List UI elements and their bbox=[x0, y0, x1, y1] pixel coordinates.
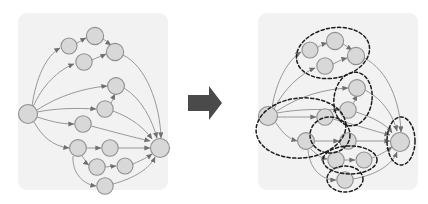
right-graph-panel bbox=[254, 13, 418, 192]
node-sink[interactable] bbox=[151, 139, 170, 158]
transform-arrow bbox=[188, 86, 222, 120]
node-r-f1[interactable] bbox=[337, 172, 353, 188]
node-r-sink[interactable] bbox=[391, 133, 410, 152]
node-b1[interactable] bbox=[108, 78, 125, 95]
node-e2[interactable] bbox=[117, 158, 133, 174]
node-c1[interactable] bbox=[75, 116, 91, 132]
node-b2[interactable] bbox=[97, 101, 113, 117]
left-graph-panel bbox=[18, 13, 170, 194]
diagram-svg bbox=[0, 0, 428, 204]
node-r-b2[interactable] bbox=[340, 102, 356, 118]
node-r-a2[interactable] bbox=[326, 32, 343, 49]
node-a2[interactable] bbox=[86, 27, 103, 44]
node-a3[interactable] bbox=[76, 54, 92, 70]
node-a4[interactable] bbox=[106, 43, 123, 60]
node-r-a4[interactable] bbox=[347, 47, 364, 64]
right-arrow-icon bbox=[188, 86, 222, 120]
node-r-a1[interactable] bbox=[302, 42, 318, 58]
figure-container bbox=[0, 0, 428, 204]
node-r-b1[interactable] bbox=[349, 80, 366, 97]
node-d2[interactable] bbox=[102, 140, 118, 156]
node-source[interactable] bbox=[19, 105, 38, 124]
node-r-a3[interactable] bbox=[317, 58, 333, 74]
node-f1[interactable] bbox=[97, 178, 113, 194]
node-r-e2[interactable] bbox=[356, 152, 372, 168]
node-e1[interactable] bbox=[89, 159, 105, 175]
node-a1[interactable] bbox=[61, 38, 77, 54]
node-d1[interactable] bbox=[70, 140, 87, 157]
